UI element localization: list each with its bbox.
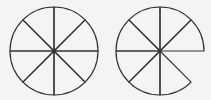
sector: [129, 7, 160, 51]
sector: [10, 20, 54, 51]
circle-seven-eighths: [116, 7, 204, 95]
center-point: [159, 50, 162, 53]
sector: [160, 7, 191, 51]
sector: [10, 51, 54, 82]
sector: [129, 51, 160, 95]
sector: [23, 51, 54, 95]
center-point: [53, 50, 56, 53]
full-circle-eighths: [10, 7, 98, 95]
sector: [54, 51, 85, 95]
sector: [116, 51, 160, 82]
sector: [54, 20, 98, 51]
sector: [23, 7, 54, 51]
fractions-diagram: [0, 0, 211, 100]
sector: [54, 7, 85, 51]
sector: [54, 51, 98, 82]
sector: [160, 51, 191, 95]
sector: [160, 20, 204, 51]
sector: [116, 20, 160, 51]
